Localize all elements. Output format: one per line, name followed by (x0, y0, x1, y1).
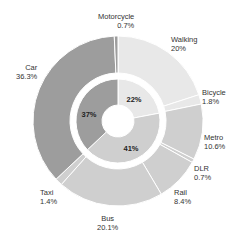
inner-label-active: 22% (126, 95, 141, 104)
label-car: Car 36.3% (16, 63, 37, 81)
label-dlr: DLR 0.7% (194, 164, 211, 182)
label-bus: Bus 20.1% (97, 214, 118, 232)
label-rail: Rail 8.4% (174, 188, 191, 206)
label-metro: Metro 10.6% (204, 133, 225, 151)
inner-label-private: 37% (81, 110, 96, 119)
nested-donut-chart (0, 0, 236, 239)
label-taxi: Taxi 1.4% (40, 188, 57, 206)
label-bicycle: Bicycle 1.8% (202, 88, 226, 106)
inner-label-public: 41% (123, 144, 138, 153)
inner-ring (76, 79, 160, 163)
label-motorcycle: Motorcycle 0.7% (98, 12, 134, 30)
outer-ring (33, 36, 203, 206)
label-walking: Walking 20% (171, 35, 197, 53)
